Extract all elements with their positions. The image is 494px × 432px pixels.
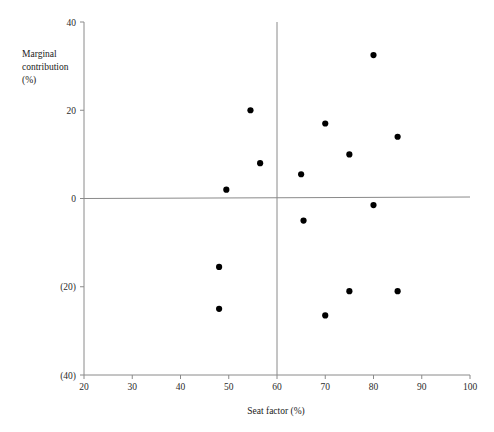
chart-background xyxy=(0,0,494,432)
x-axis-tick-label: 90 xyxy=(417,382,427,392)
chart-canvas: 40200(20)(40) 2030405060708090100 Seat f… xyxy=(0,0,494,432)
x-axis-tick-label: 40 xyxy=(176,382,186,392)
y-axis-tick-label: (40) xyxy=(60,371,76,382)
x-axis-tick-label: 80 xyxy=(369,382,379,392)
data-point xyxy=(322,312,328,318)
data-point xyxy=(247,107,253,113)
scatter-chart: 40200(20)(40) 2030405060708090100 Seat f… xyxy=(0,0,494,432)
data-point xyxy=(346,151,352,157)
y-axis-tick-label: (20) xyxy=(60,282,76,293)
x-axis-tick-label: 60 xyxy=(272,382,282,392)
y-axis-tick-label: 40 xyxy=(67,18,77,28)
y-axis-title-line-2: contribution xyxy=(22,62,69,72)
data-point xyxy=(370,52,376,58)
data-point xyxy=(216,306,222,312)
data-point xyxy=(257,160,263,166)
data-point xyxy=(300,217,306,223)
y-axis-tick-label: 20 xyxy=(67,106,77,116)
y-axis-title-line-3: (%) xyxy=(22,75,36,86)
y-axis-tick-label: 0 xyxy=(71,194,76,204)
y-axis-title-line-1: Marginal xyxy=(22,49,57,59)
x-axis-title: Seat factor (%) xyxy=(247,406,305,417)
data-point xyxy=(395,288,401,294)
data-point xyxy=(216,264,222,270)
x-axis-tick-label: 30 xyxy=(128,382,138,392)
data-point xyxy=(322,120,328,126)
data-point xyxy=(370,202,376,208)
data-point xyxy=(346,288,352,294)
x-axis-tick-label: 20 xyxy=(79,382,89,392)
data-point xyxy=(223,187,229,193)
x-axis-tick-label: 100 xyxy=(463,382,478,392)
data-point xyxy=(395,134,401,140)
x-axis-tick-label: 70 xyxy=(321,382,331,392)
x-axis-tick-label: 50 xyxy=(224,382,234,392)
data-point xyxy=(298,171,304,177)
